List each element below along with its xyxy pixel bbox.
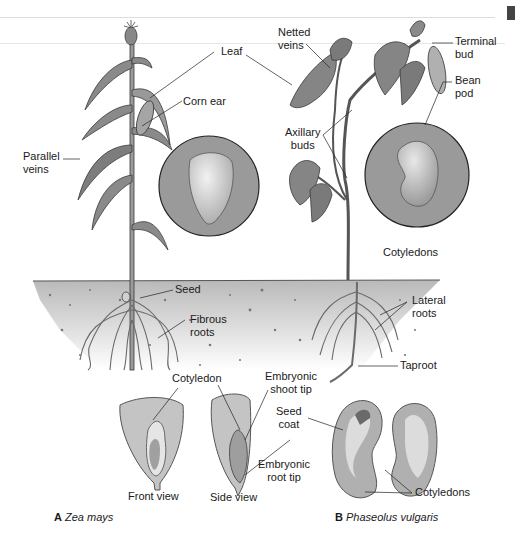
- label-parallel-veins: Parallel veins: [23, 150, 60, 176]
- corn-seed-side-view: [211, 394, 250, 496]
- label-fibrous-roots: Fibrous roots: [190, 313, 227, 339]
- label-bean-pod: Bean pod: [455, 74, 481, 100]
- caption-panel-a: AZea mays: [54, 511, 113, 523]
- caption-species-b: Phaseolus vulgaris: [346, 511, 438, 523]
- corn-seed-front-view: [120, 398, 183, 491]
- label-front-view: Front view: [128, 490, 179, 503]
- label-embryonic-root-tip: Embryonic root tip: [258, 458, 310, 484]
- caption-panel-b: BPhaseolus vulgaris: [335, 511, 438, 523]
- bean-seed-halves: [332, 401, 437, 498]
- label-side-view: Side view: [210, 491, 257, 504]
- label-leaf: Leaf: [221, 45, 242, 58]
- label-netted-veins: Netted veins: [278, 26, 310, 52]
- label-axillary-buds: Axillary buds: [285, 126, 320, 152]
- corn-kernel-inset: [159, 136, 259, 236]
- label-corn-ear: Corn ear: [183, 95, 226, 108]
- caption-letter-a: A: [54, 511, 62, 523]
- label-cotyledon: Cotyledon: [172, 372, 222, 385]
- label-taproot: Taproot: [400, 359, 437, 372]
- label-cotyledons-seed: Cotyledons: [415, 486, 470, 499]
- caption-letter-b: B: [335, 511, 343, 523]
- bean-seed-inset: [365, 123, 469, 227]
- label-terminal-bud: Terminal bud: [455, 35, 497, 61]
- label-lateral-roots: Lateral roots: [412, 294, 446, 320]
- soil-layer: [33, 280, 440, 370]
- label-seed-coat: Seed coat: [276, 405, 302, 431]
- caption-species-a: Zea mays: [65, 511, 113, 523]
- label-embryonic-shoot-tip: Embryonic shoot tip: [265, 370, 317, 396]
- label-cotyledons-inset: Cotyledons: [383, 246, 438, 259]
- label-seed: Seed: [175, 283, 201, 296]
